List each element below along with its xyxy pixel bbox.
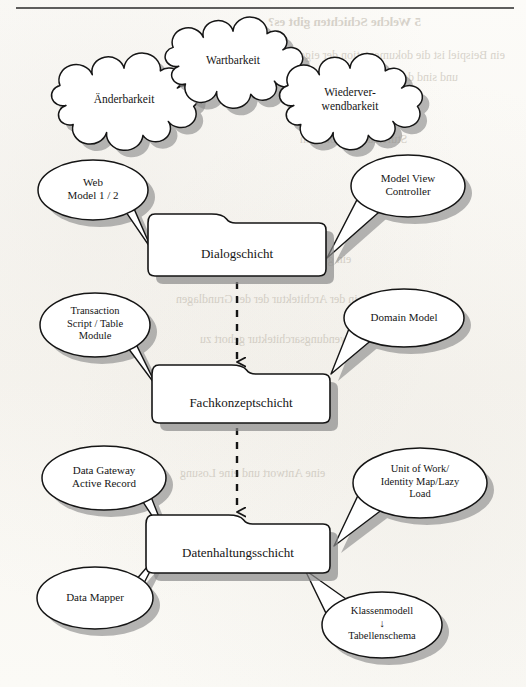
- scanned-page: 5 Welche Schichten gibt es? ein Beispiel…: [0, 0, 526, 687]
- architecture-layers: [146, 214, 338, 581]
- layer-fachkonzeptschicht-box: [152, 365, 330, 423]
- architecture-layer-diagram: [0, 0, 526, 687]
- callout-unit-of-work-bubble: [353, 448, 487, 518]
- callout-mvc-bubble: [351, 155, 465, 217]
- callout-transaction: [40, 293, 164, 394]
- layer-datenhaltungsschicht-box: [146, 515, 330, 573]
- callout-transaction-bubble: [40, 293, 150, 357]
- callout-data-mapper-bubble: [37, 567, 153, 629]
- callout-data-gateway-bubble: [42, 446, 166, 510]
- callout-domain-model: [331, 289, 471, 381]
- callout-mvc: [327, 155, 472, 265]
- layer-dialogschicht: [148, 214, 334, 284]
- callout-web-model-bubble: [38, 160, 148, 220]
- layer-dialogschicht-box: [148, 214, 326, 276]
- callout-unit-of-work: [334, 448, 494, 553]
- callout-klassenmodell-bubble: [322, 592, 442, 658]
- callout-klassenmodell: [305, 570, 449, 665]
- layer-fachkonzeptschicht: [152, 365, 338, 431]
- cloud-wiederverwend: [279, 54, 429, 157]
- callout-web-model: [38, 160, 159, 257]
- layer-datenhaltungsschicht: [146, 515, 338, 581]
- quality-attribute-clouds: [51, 17, 429, 157]
- callout-domain-model-bubble: [344, 289, 464, 347]
